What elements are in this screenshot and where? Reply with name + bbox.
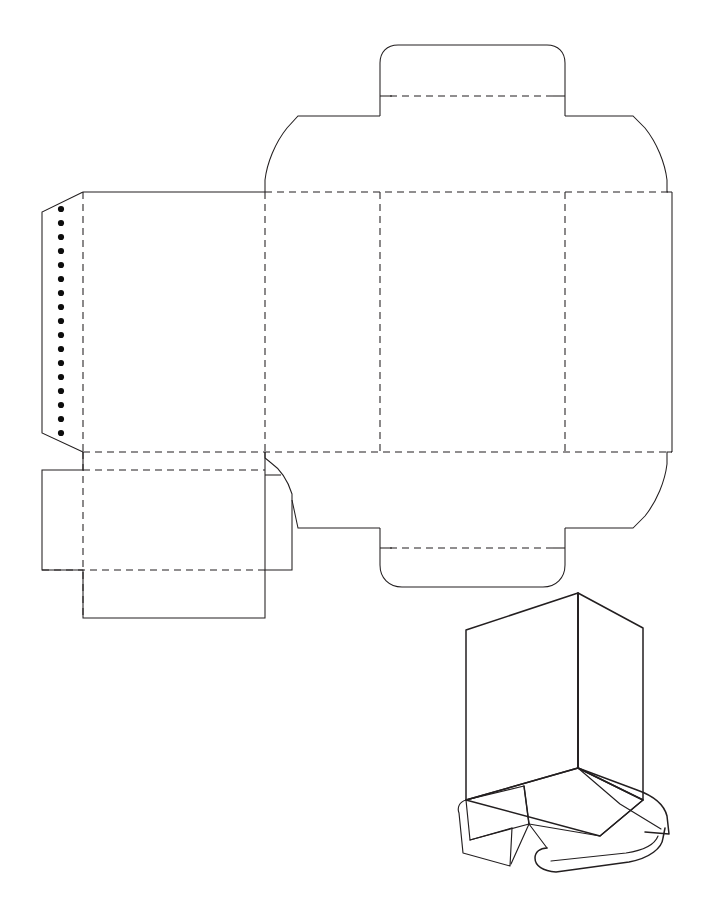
panel-front[interactable]: [380, 192, 565, 452]
panel-right-side[interactable]: [565, 192, 672, 452]
flap-bottom-tuck[interactable]: [380, 528, 565, 587]
dieline-canvas: [0, 0, 713, 898]
iso-view-hit-target[interactable]: [450, 580, 695, 875]
dieline-stage: [0, 0, 713, 898]
panel-glue-flap[interactable]: [42, 192, 83, 452]
panel-left-side[interactable]: [265, 192, 380, 452]
assembled-carton-view[interactable]: [450, 580, 695, 875]
panel-back[interactable]: [83, 192, 265, 452]
flap-bottom-left[interactable]: [42, 452, 265, 618]
flap-top-tuck[interactable]: [380, 45, 565, 116]
